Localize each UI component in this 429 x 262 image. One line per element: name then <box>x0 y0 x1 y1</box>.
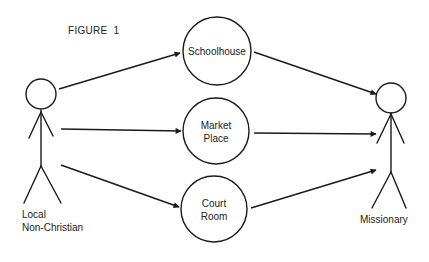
arrow-local-to-court-room <box>61 165 179 207</box>
right-figure-leg-left <box>372 172 391 208</box>
right-figure-arm-left <box>377 114 391 143</box>
left-figure-arm-right <box>41 112 53 136</box>
right-figure-head <box>376 83 406 113</box>
node-court-room-label: Court Room <box>201 197 228 223</box>
arrow-schoolhouse-to-missionary <box>254 52 376 94</box>
local-label-line2: Non-Christian <box>22 221 83 234</box>
right-figure-arm-right <box>391 114 404 143</box>
figure-title: FIGURE1 <box>68 24 119 37</box>
right-figure-leg-right <box>391 172 406 208</box>
figure-number: 1 <box>114 25 120 36</box>
node-market-place-label: Market Place <box>201 119 232 145</box>
node-schoolhouse-label: Schoolhouse <box>188 45 246 58</box>
left-figure-leg-left <box>24 166 41 203</box>
arrow-local-to-schoolhouse <box>59 53 180 89</box>
missionary-figure-icon <box>372 83 406 208</box>
court-room-line1: Court <box>201 197 228 210</box>
market-place-line1: Market <box>201 119 232 132</box>
missionary-text: Missionary <box>360 214 408 225</box>
missionary-label: Missionary <box>360 213 408 226</box>
schoolhouse-text: Schoolhouse <box>188 46 246 57</box>
court-room-line2: Room <box>201 210 228 223</box>
arrow-local-to-market-place <box>61 129 181 131</box>
arrow-court-room-to-missionary <box>251 170 376 208</box>
left-figure-leg-right <box>41 166 61 203</box>
local-non-christian-label: Local Non-Christian <box>22 208 83 234</box>
arrow-market-place-to-missionary <box>254 133 376 134</box>
local-label-line1: Local <box>22 208 83 221</box>
local-non-christian-figure-icon <box>24 79 61 203</box>
market-place-line2: Place <box>201 132 232 145</box>
figure-title-word: FIGURE <box>68 25 108 36</box>
left-figure-arm-left <box>29 112 41 138</box>
left-figure-head <box>26 79 56 109</box>
